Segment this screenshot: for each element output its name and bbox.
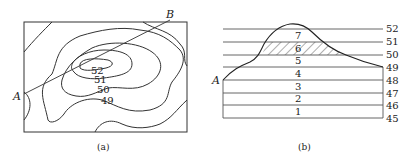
caption-a: (a) [97, 142, 109, 152]
elevation-46: 46 [386, 100, 399, 111]
band-label-3: 3 [295, 81, 301, 92]
band-label-4: 4 [295, 68, 301, 79]
band-label-2: 2 [295, 93, 301, 104]
elevation-52: 52 [386, 23, 399, 34]
elevation-49: 49 [386, 62, 399, 73]
caption-b: (b) [298, 142, 311, 152]
elevation-50: 50 [386, 49, 399, 60]
band-label-1: 1 [295, 106, 301, 117]
band-label-5: 5 [295, 55, 301, 66]
label-point-a-map: A [12, 90, 21, 103]
band-label-6: 6 [295, 43, 301, 54]
contour-label-49: 49 [101, 95, 114, 106]
band-label-7: 7 [295, 30, 301, 41]
elevation-45: 45 [386, 113, 399, 124]
cross-section [223, 24, 383, 118]
elevation-48: 48 [386, 75, 399, 86]
elevation-47: 47 [386, 88, 399, 99]
label-point-b-map: B [165, 8, 174, 21]
label-point-a-section: A [211, 74, 220, 87]
elevation-51: 51 [386, 36, 399, 47]
contour-label-50: 50 [97, 84, 110, 95]
figure-canvas: A B 52 51 50 49 (a) A 52 51 50 49 48 47 … [0, 0, 406, 165]
